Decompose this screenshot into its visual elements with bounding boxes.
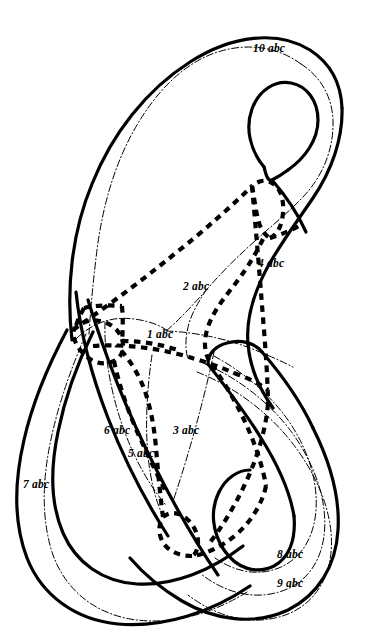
knot-diagram-canvas [0, 0, 390, 630]
knot-diagram-figure: 10 abc 4 abc 2 abc 1 abc 6 abc 3 abc 5 a… [0, 0, 390, 630]
dashed-cluster-left-vertical [122, 306, 123, 341]
